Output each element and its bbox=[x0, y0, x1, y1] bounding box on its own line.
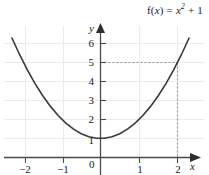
y-axis-label: y bbox=[89, 22, 94, 34]
origin-label: 0 bbox=[89, 158, 95, 170]
y-axis-arrow bbox=[96, 23, 105, 33]
y-tick-label-1: 1 bbox=[82, 134, 94, 146]
y-tick-label-4: 4 bbox=[82, 75, 94, 87]
x-tick-label-1: 1 bbox=[133, 163, 147, 175]
x-tick-label-2: 2 bbox=[171, 163, 185, 175]
grid-lines bbox=[4, 26, 205, 157]
plot-area bbox=[0, 0, 209, 175]
y-tick-label-6: 6 bbox=[82, 37, 94, 49]
y-axis-ticks bbox=[101, 44, 107, 139]
figure-parabola: f(x) = x2 + 1 bbox=[0, 0, 209, 175]
y-tick-label-2: 2 bbox=[82, 113, 94, 125]
x-axis bbox=[4, 153, 201, 163]
x-tick-label-neg1: −1 bbox=[56, 163, 70, 175]
x-axis-label: x bbox=[190, 160, 195, 172]
y-tick-label-3: 3 bbox=[82, 94, 94, 106]
x-tick-label-neg2: −2 bbox=[18, 163, 32, 175]
y-tick-label-5: 5 bbox=[82, 56, 94, 68]
y-axis bbox=[96, 23, 106, 175]
x-axis-ticks bbox=[26, 158, 178, 164]
